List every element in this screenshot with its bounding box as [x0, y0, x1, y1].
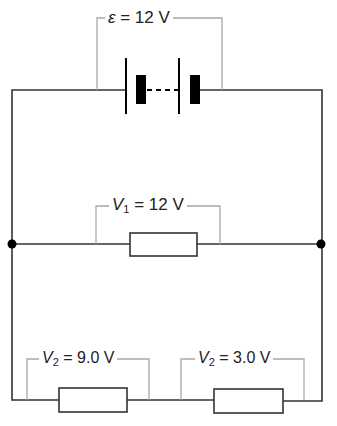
v2a-label: V2 = 9.0 V — [39, 349, 117, 371]
cell-1-negative-plate — [136, 75, 146, 104]
battery — [126, 58, 200, 114]
resistor-r2b — [214, 389, 283, 413]
v2a-value: = 9.0 V — [59, 349, 115, 366]
v1-label: V1 = 12 V — [109, 196, 187, 218]
emf-label: ε = 12 V — [105, 9, 173, 27]
resistor-r1 — [130, 233, 197, 256]
resistor-r2a — [59, 388, 127, 412]
v2a-symbol: V — [42, 349, 53, 366]
emf-bracket — [97, 18, 222, 90]
left-junction — [8, 240, 17, 249]
v1-value: = 12 V — [129, 195, 183, 214]
right-junction — [317, 240, 326, 249]
emf-value: = 12 V — [115, 8, 169, 27]
v2b-value: = 3.0 V — [215, 349, 271, 366]
v2b-label: V2 = 3.0 V — [195, 349, 273, 371]
cell-2-negative-plate — [190, 75, 200, 104]
v2b-symbol: V — [198, 349, 209, 366]
v1-symbol: V — [112, 195, 123, 214]
